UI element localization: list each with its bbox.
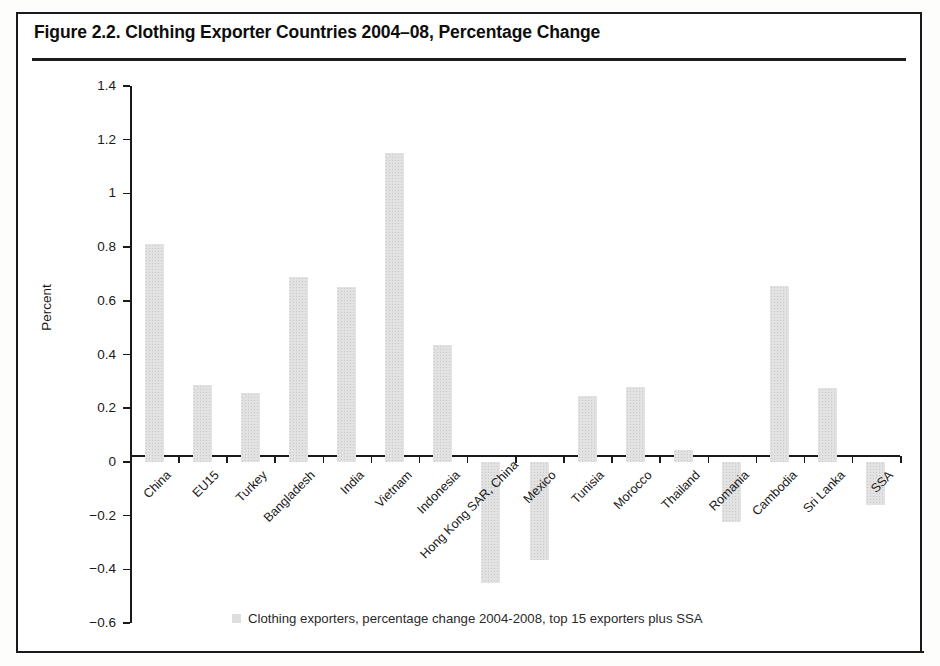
bar xyxy=(385,153,404,462)
y-axis-title: Percent xyxy=(39,258,54,358)
x-axis-tick xyxy=(515,456,517,463)
y-axis-tick-label-text: 1 xyxy=(68,185,116,200)
x-axis-tick xyxy=(900,456,902,463)
x-axis-tick xyxy=(467,456,469,463)
x-axis-category-label: Cambodia xyxy=(706,468,799,561)
y-axis-tick xyxy=(123,354,130,356)
bar xyxy=(578,396,597,462)
bar xyxy=(433,345,452,462)
y-axis-line xyxy=(130,86,132,623)
x-axis-tick xyxy=(756,456,758,463)
x-axis-tick xyxy=(323,456,325,463)
bar xyxy=(818,388,837,462)
y-axis-tick-label-text: 0.6 xyxy=(68,293,116,308)
x-axis-tick xyxy=(130,456,132,463)
x-axis-category-label: EU15 xyxy=(129,468,222,561)
x-axis-tick xyxy=(708,456,710,463)
x-axis-tick xyxy=(419,456,421,463)
x-axis-category-label: Vietnam xyxy=(321,468,414,561)
bar xyxy=(674,450,693,462)
bar-chart-plot: Percent 1.41.210.80.60.40.20−0.2−0.4−0.6… xyxy=(0,0,940,666)
y-axis-tick-label-text: 1.4 xyxy=(68,78,116,93)
x-axis-tick xyxy=(852,456,854,463)
x-axis-category-label: Sri Lanka xyxy=(754,468,847,561)
x-axis-tick xyxy=(274,456,276,463)
y-axis-tick xyxy=(123,622,130,624)
x-axis-category-label: India xyxy=(273,468,366,561)
y-axis-tick-label-text: 1.2 xyxy=(68,132,116,147)
y-axis-tick-label-text: −0.6 xyxy=(68,615,116,630)
chart-legend: Clothing exporters, percentage change 20… xyxy=(232,611,703,626)
legend-swatch-icon xyxy=(232,614,241,623)
bar xyxy=(193,385,212,462)
x-axis-tick xyxy=(659,456,661,463)
y-axis-tick-label-text: −0.4 xyxy=(68,561,116,576)
x-axis-category-label: Tunisia xyxy=(514,468,607,561)
figure-page: Figure 2.2. Clothing Exporter Countries … xyxy=(0,0,940,666)
x-axis-category-label: Thailand xyxy=(610,468,703,561)
x-axis-category-label: Morocco xyxy=(562,468,655,561)
y-axis-tick-label-text: 0.8 xyxy=(68,239,116,254)
y-axis-tick-label-text: −0.2 xyxy=(68,508,116,523)
y-axis-tick xyxy=(123,407,130,409)
x-axis-category-label: Turkey xyxy=(177,468,270,561)
y-axis-tick xyxy=(123,300,130,302)
bar xyxy=(337,287,356,462)
y-axis-tick-label-text: 0.4 xyxy=(68,347,116,362)
x-axis-tick xyxy=(611,456,613,463)
bar xyxy=(770,286,789,462)
x-axis-tick xyxy=(226,456,228,463)
legend-label: Clothing exporters, percentage change 20… xyxy=(248,611,703,626)
bar xyxy=(289,277,308,462)
y-axis-tick-label-text: 0 xyxy=(68,454,116,469)
y-axis-tick xyxy=(123,193,130,195)
y-axis-tick-label-text: 0.2 xyxy=(68,400,116,415)
x-axis-category-label: Indonesia xyxy=(369,468,462,561)
bar xyxy=(145,244,164,461)
x-axis-category-label: SSA xyxy=(802,468,895,561)
y-axis-tick xyxy=(123,85,130,87)
x-axis-tick xyxy=(178,456,180,463)
x-axis-tick xyxy=(371,456,373,463)
bar xyxy=(626,387,645,462)
y-axis-tick xyxy=(123,461,130,463)
y-axis-tick xyxy=(123,246,130,248)
y-axis-tick xyxy=(123,139,130,141)
y-axis-tick xyxy=(123,569,130,571)
bar xyxy=(241,393,260,461)
x-axis-tick xyxy=(563,456,565,463)
x-axis-tick xyxy=(804,456,806,463)
x-axis-category-label: Bangladesh xyxy=(225,468,318,561)
